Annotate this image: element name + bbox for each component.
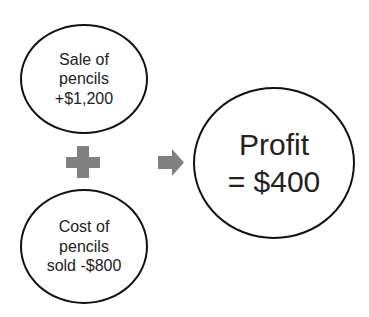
sale-of-pencils-node: Sale of pencils +$1,200 <box>20 24 148 134</box>
profit-node: Profit = $400 <box>193 87 355 239</box>
right-arrow-icon <box>158 149 184 176</box>
profit-label: Profit = $400 <box>228 126 321 201</box>
cost-of-pencils-node: Cost of pencils sold -$800 <box>20 189 148 304</box>
cost-of-pencils-label: Cost of pencils sold -$800 <box>47 217 122 276</box>
plus-icon <box>66 146 100 178</box>
sale-of-pencils-label: Sale of pencils +$1,200 <box>55 50 113 109</box>
